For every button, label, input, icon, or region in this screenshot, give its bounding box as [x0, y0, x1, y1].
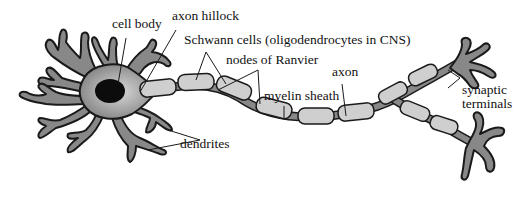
label-myelin-sheath: myelin sheath	[264, 88, 340, 103]
label-terminals: terminals	[462, 96, 512, 111]
neuron-diagram: cell body axon hillock Schwann cells (ol…	[0, 0, 524, 200]
label-axon: axon	[332, 64, 358, 79]
label-nodes-of-ranvier: nodes of Ranvier	[226, 52, 319, 67]
nucleus	[95, 79, 125, 103]
label-axon-hillock: axon hillock	[172, 8, 239, 23]
label-synaptic: synaptic	[462, 82, 507, 97]
label-dendrites: dendrites	[180, 136, 230, 151]
neuron-illustration: cell body axon hillock Schwann cells (ol…	[0, 0, 524, 200]
label-schwann-cells: Schwann cells (oligodendrocytes in CNS)	[184, 32, 410, 47]
label-cell-body: cell body	[112, 16, 162, 31]
